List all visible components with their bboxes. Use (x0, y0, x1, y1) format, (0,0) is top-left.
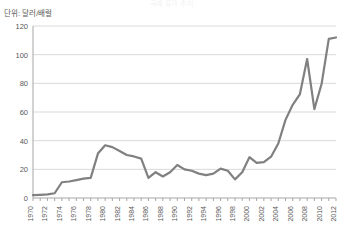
data-series-line (33, 37, 336, 195)
x-axis-tick-label: 1994 (200, 206, 207, 222)
plot-area: 0204060801001201970197219741976197819801… (0, 0, 343, 236)
x-axis-tick-label: 2002 (258, 206, 265, 222)
x-axis-tick-label: 2006 (287, 206, 294, 222)
x-axis-tick-label: 2010 (316, 206, 323, 222)
y-axis-tick-label: 0 (24, 194, 28, 203)
x-axis-tick-label: 1988 (157, 206, 164, 222)
x-axis-tick-label: 1976 (70, 206, 77, 222)
y-axis-tick-label: 20 (20, 165, 28, 174)
x-axis-tick-label: 2004 (272, 206, 279, 222)
x-axis-tick-label: 1992 (186, 206, 193, 222)
x-axis-tick-label: 1982 (114, 206, 121, 222)
oil-price-line-chart: 국제 유가 추이 단위: 달러/배럴 020406080100120197019… (0, 0, 343, 236)
y-axis-tick-label: 80 (20, 79, 28, 88)
x-axis-tick-label: 1986 (142, 206, 149, 222)
x-axis-tick-label: 1996 (215, 206, 222, 222)
x-axis-tick-label: 1990 (171, 206, 178, 222)
x-axis-tick-label: 2008 (301, 206, 308, 222)
x-axis-tick-label: 2000 (243, 206, 250, 222)
x-axis-tick-label: 1974 (56, 206, 63, 222)
y-axis-tick-label: 100 (15, 51, 28, 60)
y-axis-tick-label: 40 (20, 137, 28, 146)
y-axis-tick-label: 120 (15, 22, 28, 31)
x-axis-tick-label: 1972 (41, 206, 48, 222)
x-axis-tick-label: 2012 (330, 206, 337, 222)
x-axis-tick-label: 1998 (229, 206, 236, 222)
x-axis-tick-label: 1978 (85, 206, 92, 222)
x-axis-tick-label: 1984 (128, 206, 135, 222)
x-axis-tick-label: 1980 (99, 206, 106, 222)
x-axis-tick-label: 1970 (27, 206, 34, 222)
y-axis-tick-label: 60 (20, 108, 28, 117)
